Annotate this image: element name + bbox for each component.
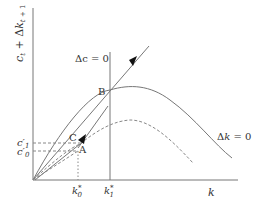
point-b-label: B: [98, 86, 105, 97]
shifted-delta-k-curve: [33, 120, 193, 180]
delta-k-zero-label: Δk = 0: [217, 131, 251, 142]
y-axis-label: ct + Δkt + 1: [13, 5, 27, 62]
x-axis-label: k: [208, 186, 215, 199]
point-a-label: A: [78, 144, 87, 155]
k1-tick-label: k*1: [104, 184, 114, 199]
delta-c-zero-label: Δc = 0: [75, 53, 109, 64]
saddle-path: [33, 46, 149, 180]
delta-k-zero-curve: [33, 87, 232, 180]
point-c-label: C: [69, 132, 77, 143]
diagram: ct + Δkt + 1 k Δc = 0 Δk = 0 B C A c′1 c…: [0, 0, 261, 206]
k0-tick-label: k*0: [72, 184, 83, 199]
